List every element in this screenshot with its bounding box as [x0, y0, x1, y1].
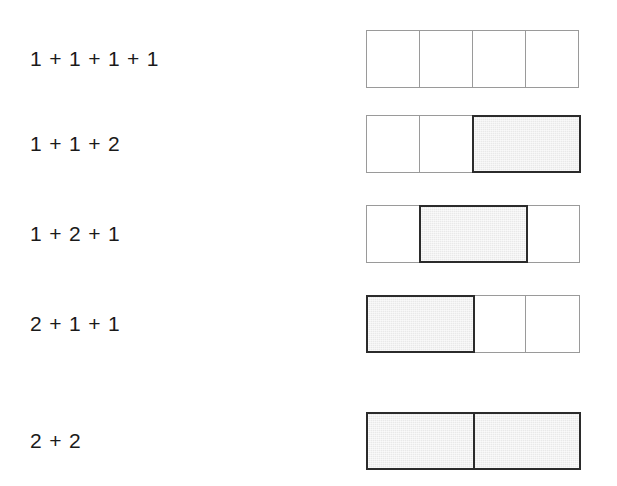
bar-cell-domino — [472, 412, 581, 470]
bar-cell-square — [525, 205, 580, 263]
bar-cell-domino — [366, 295, 475, 353]
bar-cell-square — [472, 295, 527, 353]
bar-cell-square — [366, 205, 421, 263]
bar-cell-square — [525, 295, 580, 353]
composition-label: 1+1+2 — [30, 132, 120, 156]
composition-bar — [366, 412, 579, 470]
composition-bar — [366, 205, 578, 263]
bar-cell-square — [366, 30, 421, 88]
composition-bar — [366, 295, 578, 353]
bar-cell-square — [472, 30, 527, 88]
bar-cell-domino — [472, 115, 581, 173]
bar-cell-square — [419, 30, 474, 88]
composition-label: 2+2 — [30, 429, 81, 453]
bar-cell-square — [366, 115, 421, 173]
composition-bar — [366, 115, 578, 173]
composition-row: 1+2+1 — [0, 199, 617, 269]
composition-label: 1+1+1+1 — [30, 47, 159, 71]
composition-row: 1+1+2 — [0, 109, 617, 179]
bar-cell-domino — [366, 412, 475, 470]
composition-bar — [366, 30, 578, 88]
bar-cell-square — [525, 30, 580, 88]
compositions-figure: 1+1+1+11+1+21+2+12+1+12+2 — [0, 0, 617, 486]
composition-row: 2+1+1 — [0, 289, 617, 359]
composition-label: 1+2+1 — [30, 222, 120, 246]
bar-cell-square — [419, 115, 474, 173]
composition-label: 2+1+1 — [30, 312, 120, 336]
composition-row: 1+1+1+1 — [0, 24, 617, 94]
composition-row: 2+2 — [0, 406, 617, 476]
bar-cell-domino — [419, 205, 528, 263]
